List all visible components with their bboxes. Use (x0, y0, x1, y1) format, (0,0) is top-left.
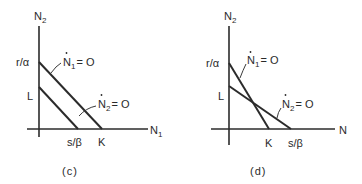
y-axis-label: N2 (34, 10, 47, 25)
panel-d: N2 r/α L N1= O N2= O N K s/β (d) (206, 10, 347, 177)
n1-isocline-label: N1= O (247, 54, 279, 69)
n1-leader-line (51, 63, 61, 73)
n1-dot (250, 51, 252, 53)
n2-dot (285, 94, 287, 96)
x-intercept-s-beta: s/β (288, 137, 303, 149)
n2-dot (101, 94, 103, 96)
x-axis-label: N1 (150, 124, 163, 139)
y-intercept-r-alpha: r/α (16, 56, 30, 68)
panel-caption: (c) (62, 165, 78, 177)
y-intercept-L: L (27, 90, 33, 102)
n1-dot (66, 52, 68, 54)
x-intercept-K: K (98, 136, 106, 148)
n2-isocline-label: N2= O (282, 98, 314, 113)
x-intercept-s-beta: s/β (67, 136, 82, 148)
n2-zero-isocline (39, 87, 78, 129)
n1-leader-line (240, 64, 246, 78)
n2-isocline-label: N2= O (98, 98, 130, 113)
isocline-diagrams: N2 r/α L N1= O N2= O N1 s/β K (c) N2 r/α… (0, 0, 362, 184)
n1-isocline-label: N1= O (63, 56, 95, 71)
y-axis-label: N2 (224, 10, 237, 25)
x-intercept-K: K (265, 137, 273, 149)
panel-c: N2 r/α L N1= O N2= O N1 s/β K (c) (16, 10, 163, 177)
y-intercept-L: L (218, 90, 224, 102)
n1-zero-isocline (39, 62, 102, 129)
panel-caption: (d) (250, 165, 266, 177)
n2-leader-line (277, 108, 281, 118)
x-axis-label: N (339, 124, 347, 136)
y-intercept-r-alpha: r/α (206, 57, 220, 69)
n1-zero-isocline (229, 63, 269, 129)
